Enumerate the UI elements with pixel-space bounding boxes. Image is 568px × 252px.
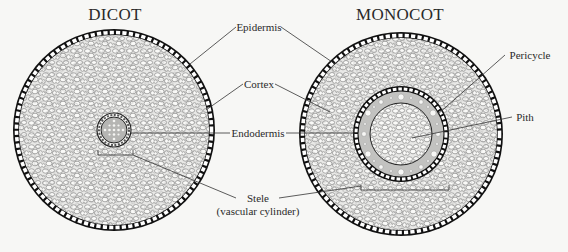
root-cross-section-diagram: DICOT MONOCOT Epidermis Cortex Endodermi… (0, 0, 568, 252)
monocot-pith (370, 103, 432, 165)
label-stele-subtitle: (vascular cylinder) (217, 206, 300, 217)
monocot-cross-section (299, 32, 503, 236)
label-pericycle: Pericycle (510, 50, 551, 61)
label-endodermis: Endodermis (231, 128, 284, 139)
dicot-cross-section (13, 29, 215, 231)
label-pith: Pith (516, 112, 534, 123)
dicot-title: DICOT (88, 6, 141, 23)
monocot-title: MONOCOT (356, 6, 444, 23)
label-stele: Stele (247, 193, 269, 204)
label-epidermis: Epidermis (236, 22, 281, 33)
label-cortex: Cortex (244, 79, 274, 90)
